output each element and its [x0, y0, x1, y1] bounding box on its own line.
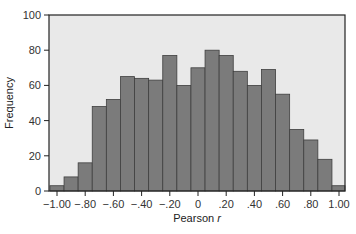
histogram-bar	[92, 107, 106, 191]
y-tick-label: 100	[23, 9, 41, 21]
histogram-bar	[247, 85, 261, 191]
y-tick-label: 60	[29, 79, 41, 91]
histogram-bar	[149, 80, 163, 191]
x-tick-label: .40	[247, 198, 262, 210]
histogram-bar	[219, 55, 233, 191]
histogram-bar	[120, 77, 134, 191]
x-tick-label: 1.00	[328, 198, 349, 210]
histogram-bar	[177, 85, 191, 191]
x-axis-title-main: Pearson	[173, 212, 217, 224]
x-axis-title-italic: r	[217, 212, 222, 224]
x-axis-title: Pearson r	[173, 212, 222, 224]
x-tick-label: 0	[195, 198, 201, 210]
y-tick-label: 20	[29, 150, 41, 162]
histogram-bar	[78, 163, 92, 191]
histogram-bar	[50, 186, 64, 191]
x-tick-label: .20	[219, 198, 234, 210]
histogram-bar	[304, 140, 318, 191]
histogram-bar	[332, 186, 345, 191]
x-axis: −1.00−.80−.60−.40−.200.20.40.60.801.00	[43, 191, 350, 210]
x-tick-label: −.20	[159, 198, 181, 210]
histogram-bar	[276, 94, 290, 191]
histogram-bar	[106, 99, 120, 191]
histogram-bar	[318, 159, 332, 191]
y-tick-label: 80	[29, 44, 41, 56]
histogram-bar	[191, 68, 205, 191]
histogram-bar	[135, 78, 149, 191]
x-tick-label: .60	[275, 198, 290, 210]
histogram-bar	[205, 50, 219, 191]
y-axis: 020406080100	[23, 9, 49, 197]
histogram-bar	[290, 129, 304, 191]
x-tick-label: −.40	[131, 198, 153, 210]
histogram-bar	[233, 71, 247, 191]
histogram-chart: 020406080100 −1.00−.80−.60−.40−.200.20.4…	[0, 0, 356, 234]
y-axis-title: Frequency	[3, 77, 15, 129]
histogram-bar	[163, 55, 177, 191]
histogram-bar	[64, 177, 78, 191]
x-tick-label: −.60	[103, 198, 125, 210]
x-tick-label: .80	[303, 198, 318, 210]
histogram-bar	[261, 70, 275, 191]
x-tick-label: −.80	[74, 198, 96, 210]
y-tick-label: 0	[35, 185, 41, 197]
y-tick-label: 40	[29, 115, 41, 127]
x-tick-label: −1.00	[43, 198, 71, 210]
